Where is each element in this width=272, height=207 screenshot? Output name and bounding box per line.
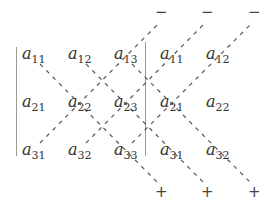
entry-aug-a12: a12	[206, 46, 230, 65]
plus-sign-1: +	[155, 185, 168, 200]
entry-a13: a13	[114, 46, 138, 65]
entry-a22: a22	[68, 94, 92, 113]
plus-sign-2: +	[201, 185, 214, 200]
entry-aug-a22: a22	[206, 94, 230, 113]
plus-diagonal-1	[40, 64, 160, 185]
minus-diagonal-3	[132, 22, 253, 143]
minus-sign-3: −	[248, 5, 261, 20]
minus-sign-1: −	[155, 5, 168, 20]
minus-diagonal-1	[40, 22, 160, 143]
entry-a31: a31	[22, 142, 46, 161]
entry-a11: a11	[22, 46, 46, 65]
entry-a32: a32	[68, 142, 92, 161]
minus-sign-2: −	[201, 5, 214, 20]
entry-aug-a11: a11	[160, 46, 184, 65]
entry-a21: a21	[22, 94, 46, 113]
entry-a23: a23	[114, 94, 138, 113]
entry-aug-a31: a31	[160, 142, 184, 161]
entry-a33: a33	[114, 142, 138, 161]
plus-diagonal-3	[132, 64, 253, 185]
entry-a12: a12	[68, 46, 92, 65]
plus-sign-3: +	[248, 185, 261, 200]
entry-aug-a21: a21	[160, 94, 184, 113]
entry-aug-a32: a32	[206, 142, 230, 161]
